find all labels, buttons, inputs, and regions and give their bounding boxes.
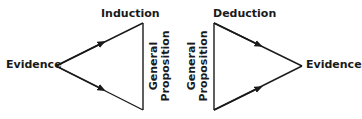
left-general-proposition-label: General Proposition: [148, 26, 172, 106]
left-proposition-text: Proposition: [160, 26, 172, 106]
left-evidence-label: Evidence: [6, 59, 62, 71]
deduction-triangle: [214, 23, 302, 110]
deduction-lower-arrow-icon: [214, 88, 259, 110]
deduction-upper-arrow-icon: [214, 23, 259, 45]
induction-lower-arrow-icon: [56, 66, 102, 89]
induction-label: Induction: [101, 8, 160, 20]
right-proposition-text: Proposition: [198, 26, 210, 106]
right-general-proposition-label: General Proposition: [186, 26, 210, 106]
right-evidence-label: Evidence: [306, 59, 362, 71]
deduction-label: Deduction: [213, 8, 276, 20]
induction-triangle: [56, 23, 143, 110]
induction-upper-arrow-icon: [56, 43, 102, 66]
